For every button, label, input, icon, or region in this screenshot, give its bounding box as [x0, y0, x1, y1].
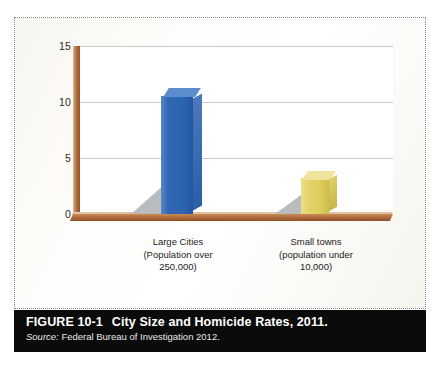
category-label-line-1: Small towns	[251, 236, 381, 249]
category-label-line-2: (population under	[251, 249, 381, 262]
x-axis-line	[70, 214, 393, 221]
y-tick-label-5: 5	[37, 152, 71, 164]
source-text: Federal Bureau of Investigation 2012.	[61, 331, 219, 342]
figure-root: 15 10 5 0	[0, 0, 442, 366]
bar-shadow-large-cities	[131, 184, 165, 214]
category-label-small-towns: Small towns (population under 10,000)	[251, 236, 381, 274]
figure-panel: 15 10 5 0	[14, 17, 426, 309]
figure-number: FIGURE 10-1	[26, 315, 103, 329]
bar-front-face-small-towns	[301, 178, 329, 214]
category-label-line-3: 10,000)	[251, 261, 381, 274]
y-tick-label-10: 10	[37, 96, 71, 108]
category-label-line-3: 250,000)	[113, 261, 243, 274]
category-label-line-2: (Population over	[113, 249, 243, 262]
gridline-5	[79, 158, 393, 159]
bar-side-face-small-towns	[329, 175, 337, 212]
bar-small-towns[interactable]	[301, 178, 329, 214]
bar-front-face-large-cities	[161, 96, 193, 214]
gridline-15	[79, 46, 393, 47]
figure-caption-title: FIGURE 10-1City Size and Homicide Rates,…	[26, 315, 416, 329]
category-label-large-cities: Large Cities (Population over 250,000)	[113, 236, 243, 274]
y-axis-line	[73, 46, 80, 218]
bar-chart: 15 10 5 0	[61, 46, 393, 228]
category-label-line-1: Large Cities	[113, 236, 243, 249]
figure-title-text: City Size and Homicide Rates, 2011.	[112, 315, 328, 329]
figure-caption-bar: FIGURE 10-1City Size and Homicide Rates,…	[14, 310, 426, 352]
figure-source-line: Source: Federal Bureau of Investigation …	[26, 331, 416, 342]
plot-background	[79, 46, 393, 210]
bar-side-face-large-cities	[193, 93, 202, 210]
gridline-10	[79, 102, 393, 103]
source-label: Source:	[26, 331, 59, 342]
bar-large-cities[interactable]	[161, 96, 193, 214]
y-tick-label-0: 0	[37, 208, 71, 220]
bar-top-face-large-cities	[163, 88, 201, 97]
y-tick-label-15: 15	[37, 40, 71, 52]
